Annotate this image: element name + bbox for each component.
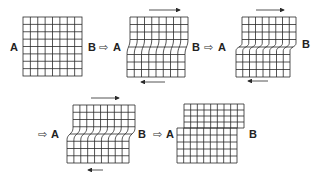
panel-4-shear-grid bbox=[67, 105, 135, 163]
label-b: B bbox=[192, 41, 200, 53]
step-arrow-icon: ⇨ bbox=[153, 128, 162, 141]
label-a: A bbox=[218, 41, 226, 53]
label-b: B bbox=[302, 38, 310, 50]
label-a: A bbox=[10, 41, 18, 53]
label-a: A bbox=[113, 41, 121, 53]
label-b: B bbox=[249, 128, 257, 140]
label-a: A bbox=[166, 128, 174, 140]
step-arrow-icon: ⇨ bbox=[204, 41, 213, 54]
panel-3-shear-grid bbox=[236, 17, 296, 77]
label-a: A bbox=[51, 128, 59, 140]
panel-1-undeformed-grid bbox=[23, 17, 82, 76]
step-arrow-icon: ⇨ bbox=[99, 41, 108, 54]
label-b: B bbox=[88, 41, 96, 53]
label-b: B bbox=[138, 128, 146, 140]
panel-2-shear-grid bbox=[127, 17, 188, 77]
panel-5-faulted-grid bbox=[177, 104, 244, 163]
shear-diagram: A B ⇨ A B ⇨ A B ⇨ A B ⇨ A B bbox=[0, 0, 317, 175]
step-arrow-icon: ⇨ bbox=[38, 128, 47, 141]
